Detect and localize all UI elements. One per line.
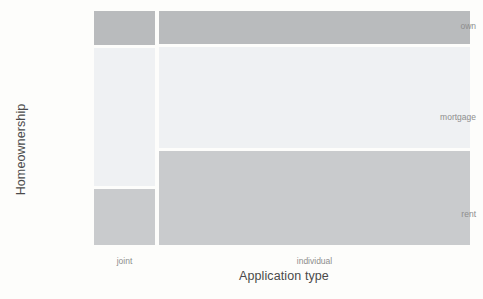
mosaic-tile-individual-rent <box>159 151 470 245</box>
y-tick-label-rent: rent <box>397 209 483 219</box>
x-tick-label-joint: joint <box>94 256 155 266</box>
y-axis-title: Homeownership <box>10 0 32 299</box>
mosaic-tile-joint-rent <box>94 189 155 245</box>
x-axis-title: Application type <box>94 269 474 283</box>
mosaic-plot: own mortgage rent joint individual Homeo… <box>0 0 483 299</box>
mosaic-tile-joint-mortgage <box>94 48 155 186</box>
y-tick-label-own: own <box>397 21 483 31</box>
x-tick-label-individual: individual <box>159 256 470 266</box>
y-tick-label-mortgage: mortgage <box>397 112 483 122</box>
mosaic-tile-joint-own <box>94 11 155 45</box>
mosaic-tile-individual-mortgage <box>159 47 470 148</box>
